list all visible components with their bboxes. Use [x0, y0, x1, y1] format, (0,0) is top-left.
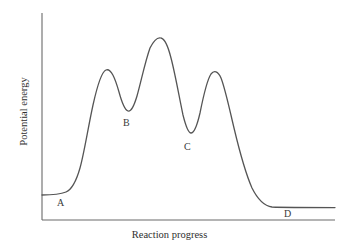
- point-label-a: A: [57, 197, 64, 208]
- potential-energy-curve: [42, 38, 335, 208]
- x-axis-title: Reaction progress: [0, 229, 339, 240]
- y-axis-title: Potential energy: [18, 77, 29, 145]
- energy-curve-group: [42, 38, 335, 208]
- y-axis-title-wrapper: Potential energy: [12, 0, 34, 222]
- axes-group: [42, 13, 335, 220]
- point-label-c: C: [184, 141, 191, 152]
- potential-energy-diagram: A B C D Reaction progress Potential ener…: [0, 0, 339, 246]
- point-label-d: D: [284, 208, 291, 219]
- point-label-b: B: [123, 117, 130, 128]
